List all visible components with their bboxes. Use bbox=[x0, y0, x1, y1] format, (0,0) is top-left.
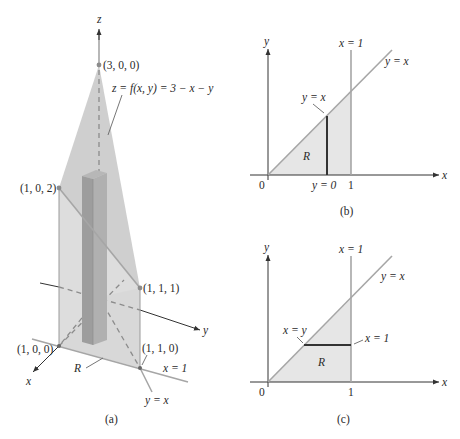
x-axis-label-b: x bbox=[441, 169, 448, 181]
leader-left-c bbox=[297, 337, 303, 343]
label-3-0-0: (3, 0, 0) bbox=[103, 59, 140, 72]
z-axis-label: z bbox=[96, 13, 102, 25]
x-eq-1-label-a: x = 1 bbox=[162, 362, 187, 374]
left-bound-label-c: x = y bbox=[282, 324, 308, 337]
point-1-1-1 bbox=[138, 286, 143, 291]
caption-a: (a) bbox=[105, 413, 118, 426]
volume-element-box bbox=[82, 170, 107, 345]
surface-leader bbox=[108, 95, 122, 135]
x-eq-1-label-b: x = 1 bbox=[338, 37, 363, 49]
lower-bound-label-b: y = 0 bbox=[311, 179, 337, 192]
origin-label-c: 0 bbox=[259, 386, 265, 398]
y-axis-label-c: y bbox=[263, 241, 270, 254]
region-leader bbox=[86, 358, 103, 368]
origin-label-b: 0 bbox=[259, 179, 265, 191]
panel-a: z (3, 0, 0) z = f(x, y) = 3 − x − y (1, … bbox=[17, 13, 214, 426]
x-axis-label: x bbox=[25, 375, 32, 387]
tick-1-c: 1 bbox=[348, 386, 354, 398]
figure-canvas: z (3, 0, 0) z = f(x, y) = 3 − x − y (1, … bbox=[0, 0, 460, 439]
y-axis-left bbox=[40, 283, 59, 287]
point-leader bbox=[142, 355, 147, 365]
leader-b bbox=[313, 104, 324, 113]
label-1-0-2: (1, 0, 2) bbox=[20, 182, 57, 195]
region-label-a: R bbox=[73, 362, 81, 374]
caption-c: (c) bbox=[337, 413, 350, 426]
caption-b: (b) bbox=[340, 205, 354, 218]
label-1-1-1: (1, 1, 1) bbox=[143, 282, 180, 295]
point-1-0-0 bbox=[57, 344, 61, 348]
region-label-c: R bbox=[317, 356, 325, 368]
label-1-1-0: (1, 1, 0) bbox=[142, 342, 179, 355]
y-axis-arrow bbox=[140, 310, 200, 330]
region-label-b: R bbox=[302, 150, 310, 162]
x-eq-1-label-c: x = 1 bbox=[338, 243, 363, 255]
y-eq-x-label-c: y = x bbox=[380, 270, 406, 283]
surface-equation-label: z = f(x, y) = 3 − x − y bbox=[111, 82, 214, 95]
y-axis-label: y bbox=[202, 324, 209, 337]
right-bound-label-c: x = 1 bbox=[364, 332, 389, 344]
x-axis-label-c: x bbox=[441, 376, 448, 388]
panel-b: y x = 1 y = x y = x R x 0 y = 0 1 (b) bbox=[250, 35, 448, 218]
upper-bound-label-b: y = x bbox=[301, 91, 327, 104]
y-eq-x-label-b: y = x bbox=[384, 55, 410, 68]
label-1-0-0: (1, 0, 0) bbox=[17, 343, 54, 356]
tick-1-b: 1 bbox=[348, 179, 354, 191]
point-3-0-0 bbox=[97, 63, 102, 68]
panel-c: y x = 1 y = x x = y x = 1 R x 0 1 (c) bbox=[250, 241, 448, 426]
point-1-1-0 bbox=[138, 366, 142, 370]
y-eq-x-label-a: y = x bbox=[144, 394, 170, 407]
y-axis-label-b: y bbox=[263, 35, 270, 48]
point-1-0-2 bbox=[57, 186, 62, 191]
leader-right-c bbox=[354, 340, 363, 344]
